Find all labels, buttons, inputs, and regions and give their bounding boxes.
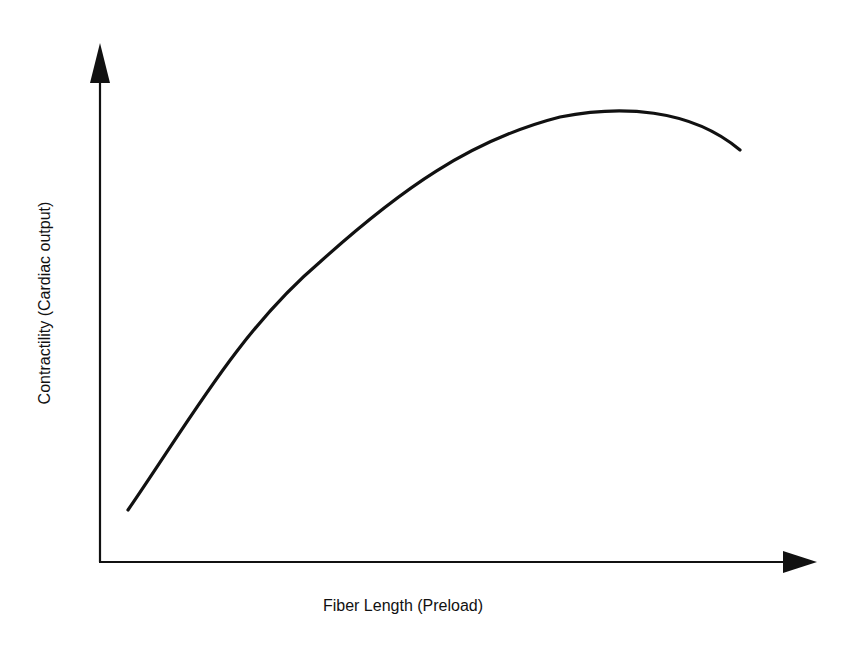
chart-canvas (0, 0, 845, 649)
contractility-curve (128, 111, 740, 510)
y-axis-label: Contractility (Cardiac output) (36, 202, 54, 405)
x-axis-arrow-icon (783, 551, 817, 573)
y-axis-arrow-icon (90, 43, 110, 83)
x-axis-label: Fiber Length (Preload) (323, 597, 483, 615)
